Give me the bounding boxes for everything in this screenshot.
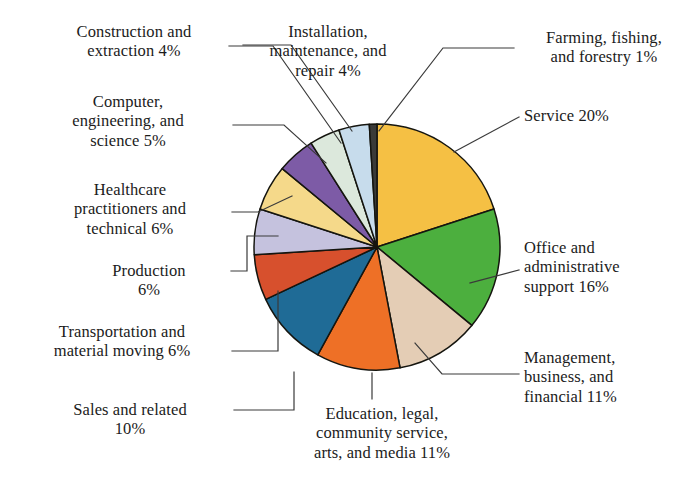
pie-label-management-business-and-financial: Management, business, and financial 11% xyxy=(524,348,690,406)
pie-label-healthcare-practitioners-and-technical: Healthcare practitioners and technical 6… xyxy=(28,180,232,238)
pie-label-farming-fishing-and-forestry: Farming, fishing, and forestry 1% xyxy=(516,28,692,67)
leader-line-service xyxy=(454,117,519,152)
pie-label-education-legal-community-service-arts-and-media: Education, legal, community service, art… xyxy=(282,404,482,462)
pie-label-construction-and-extraction: Construction and extraction 4% xyxy=(36,22,232,61)
pie-label-service: Service 20% xyxy=(524,106,678,125)
pie-slices xyxy=(254,124,500,370)
pie-label-installation-maintenance-and-repair: Installation, maintenance, and repair 4% xyxy=(253,22,403,80)
pie-label-transportation-and-material-moving: Transportation and material moving 6% xyxy=(10,322,234,361)
pie-label-production: Production 6% xyxy=(66,261,232,300)
pie-label-sales-and-related: Sales and related 10% xyxy=(24,400,236,439)
pie-label-computer-engineering-and-science: Computer, engineering, and science 5% xyxy=(24,92,232,150)
pie-label-office-and-administrative-support: Office and administrative support 16% xyxy=(524,238,686,296)
pie-chart-figure: Construction and extraction 4% Computer,… xyxy=(0,0,695,492)
